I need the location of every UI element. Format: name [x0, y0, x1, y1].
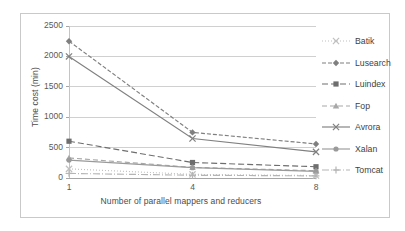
legend-item-lusearch[interactable]: Lusearch — [321, 57, 391, 69]
data-point-diamond — [333, 59, 339, 65]
legend-label: Tomcat — [355, 165, 383, 175]
legend-swatch-diamond-icon — [321, 57, 351, 69]
legend-label: Xalan — [355, 144, 377, 154]
legend-swatch-x-icon — [321, 35, 351, 47]
data-point-circle — [66, 157, 71, 162]
legend-label: Fop — [355, 101, 370, 111]
data-point-x — [333, 38, 339, 44]
legend-item-avrora[interactable]: Avrora — [321, 121, 380, 133]
data-point-diamond — [313, 141, 319, 147]
legend-swatch-square-icon — [321, 78, 351, 90]
legend-item-tomcat[interactable]: Tomcat — [321, 164, 383, 176]
legend-label: Batik — [355, 36, 374, 46]
chart-figure: Time cost (min) Number of parallel mappe… — [0, 0, 405, 231]
series-lusearch — [66, 38, 319, 147]
data-point-square — [66, 139, 71, 144]
legend-item-batik[interactable]: Batik — [321, 35, 374, 47]
legend-label: Luindex — [355, 79, 385, 89]
legend-swatch-x-icon — [321, 121, 351, 133]
legend-swatch-triangle-icon — [321, 100, 351, 112]
legend-item-xalan[interactable]: Xalan — [321, 143, 377, 155]
data-point-square — [333, 81, 338, 86]
data-point-plus — [333, 167, 340, 174]
data-point-circle — [333, 146, 338, 151]
legend-label: Avrora — [355, 122, 380, 132]
legend-item-luindex[interactable]: Luindex — [321, 78, 385, 90]
legend-swatch-circle-icon — [321, 143, 351, 155]
legend-item-fop[interactable]: Fop — [321, 100, 370, 112]
chart-frame: Time cost (min) Number of parallel mappe… — [20, 13, 390, 218]
series-line — [69, 56, 316, 151]
legend-swatch-plus-icon — [321, 164, 351, 176]
data-point-circle — [190, 165, 195, 170]
series-avrora — [66, 53, 319, 155]
legend-label: Lusearch — [355, 58, 391, 68]
